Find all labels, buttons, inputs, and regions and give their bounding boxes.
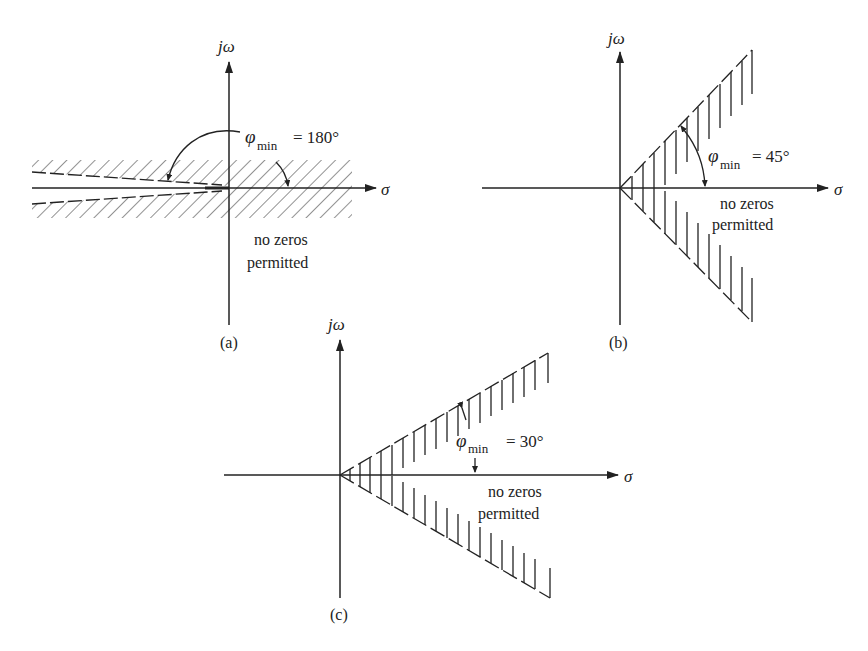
note-line2-a: permitted bbox=[247, 254, 308, 272]
imag-axis-label-c: jω bbox=[326, 315, 345, 334]
phi-value-c: = 30° bbox=[506, 432, 544, 451]
real-axis-label-a: σ bbox=[381, 180, 390, 199]
note-line1-b: no zeros bbox=[720, 195, 774, 212]
note-line1-a: no zeros bbox=[254, 231, 308, 248]
note-line2-b: permitted bbox=[712, 216, 773, 234]
imag-axis-label-b: jω bbox=[606, 29, 625, 48]
phi-symbol-a: φ bbox=[245, 126, 256, 147]
angle-arc-c bbox=[462, 408, 466, 420]
figure-canvas: jω σ φ min = 180° no zeros permitted (a) bbox=[0, 0, 868, 651]
caption-c: (c) bbox=[330, 606, 348, 624]
phi-value-b: = 45° bbox=[752, 147, 790, 166]
phi-sub-c: min bbox=[468, 441, 489, 456]
hatched-region-b bbox=[620, 50, 752, 322]
phi-symbol-c: φ bbox=[456, 430, 467, 451]
hatched-region-a bbox=[32, 160, 352, 218]
caption-a: (a) bbox=[220, 334, 238, 352]
phi-value-a: = 180° bbox=[293, 128, 339, 147]
phi-symbol-b: φ bbox=[708, 145, 719, 166]
note-line1-c: no zeros bbox=[488, 483, 542, 500]
real-axis-label-c: σ bbox=[624, 467, 633, 486]
phi-sub-a: min bbox=[257, 138, 278, 153]
caption-b: (b) bbox=[609, 334, 628, 352]
phi-sub-b: min bbox=[720, 157, 741, 172]
real-axis-label-b: σ bbox=[834, 180, 843, 199]
panel-a: jω σ φ min = 180° no zeros permitted (a) bbox=[32, 37, 390, 352]
note-line2-c: permitted bbox=[478, 505, 539, 523]
panel-b: jω σ φ min = 45° no zeros permitted (b) bbox=[482, 29, 843, 352]
imag-axis-label-a: jω bbox=[216, 37, 235, 56]
panel-c: jω σ φ min = 30° no zeros permitted (c) bbox=[224, 315, 633, 624]
